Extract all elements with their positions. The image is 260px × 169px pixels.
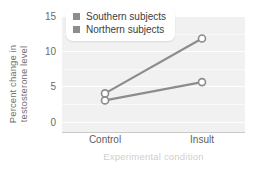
chart-figure: Percent change intestosterone level 15 1…	[0, 0, 260, 169]
y-axis-title-line1: Percent change in	[7, 45, 18, 123]
legend-label-southern: Southern subjects	[86, 11, 166, 22]
y-tick-label-15: 15	[36, 11, 56, 22]
point-northern-control	[102, 97, 109, 104]
x-axis-line	[62, 132, 245, 133]
y-axis-title-line2: testosterone level	[18, 46, 29, 122]
x-axis-tick-labels: Control Insult	[62, 134, 245, 148]
legend-label-northern: Northern subjects	[86, 24, 164, 35]
x-tick-label-insult: Insult	[190, 134, 214, 145]
legend-item-northern: Northern subjects	[73, 23, 166, 36]
y-tick-label-10: 10	[36, 46, 56, 57]
point-southern-control	[102, 90, 109, 97]
y-axis-title: Percent change intestosterone level	[7, 25, 29, 143]
legend-swatch-icon-northern	[73, 26, 80, 33]
chart-legend: Southern subjects Northern subjects	[66, 6, 175, 41]
y-tick-label-5: 5	[36, 81, 56, 92]
legend-swatch-icon-southern	[73, 13, 80, 20]
x-tick-label-control: Control	[89, 134, 121, 145]
x-axis-title: Experimental condition	[62, 151, 245, 162]
point-northern-insult	[199, 79, 206, 86]
y-tick-label-0: 0	[36, 116, 56, 127]
point-southern-insult	[199, 35, 206, 42]
legend-item-southern: Southern subjects	[73, 10, 166, 23]
y-axis-tick-labels: 15 10 5 0	[36, 0, 56, 169]
